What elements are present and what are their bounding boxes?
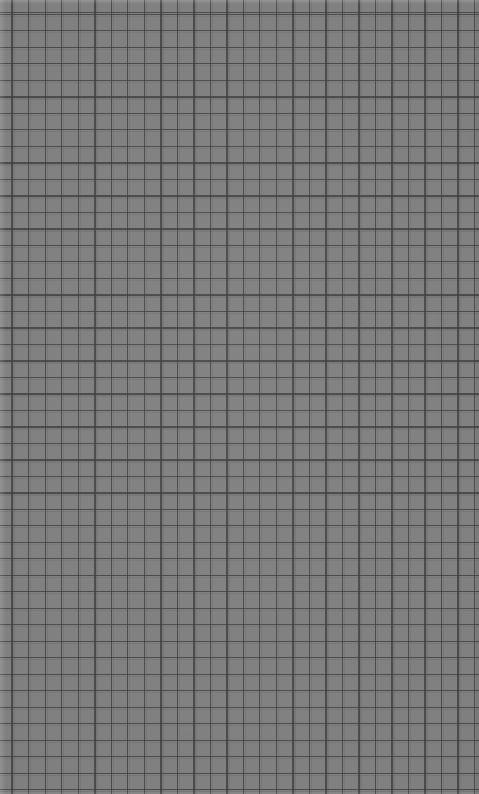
grid-canvas: Blank grid-ruled surface with no interfa… (0, 0, 479, 794)
grid-lines-secondary (0, 0, 479, 794)
